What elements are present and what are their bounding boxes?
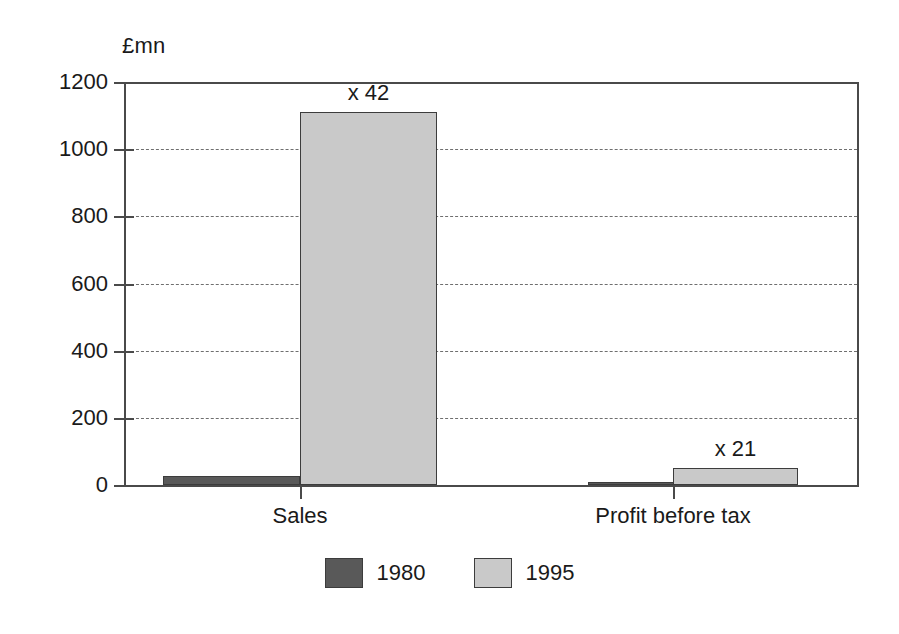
legend-item-1980[interactable]: 1980 xyxy=(325,558,426,588)
y-tick-1000 xyxy=(114,149,134,151)
gridline-400 xyxy=(126,351,857,352)
x-tick-sales xyxy=(300,485,302,499)
chart-legend: 19801995 xyxy=(0,558,899,588)
y-tick-200 xyxy=(114,418,134,420)
y-tick-0 xyxy=(114,485,134,487)
plot-frame-top xyxy=(124,82,859,84)
gridline-200 xyxy=(126,418,857,419)
gridline-1000 xyxy=(126,149,857,150)
legend-label-1980: 1980 xyxy=(377,560,426,586)
category-label-sales: Sales xyxy=(272,503,327,529)
y-tick-600 xyxy=(114,284,134,286)
legend-item-1995[interactable]: 1995 xyxy=(474,558,575,588)
y-tick-800 xyxy=(114,216,134,218)
y-tick-label-200: 200 xyxy=(0,405,108,431)
y-tick-1200 xyxy=(114,82,134,84)
legend-swatch-1980 xyxy=(325,558,363,588)
bar-annotation-x-42: x 42 xyxy=(348,80,390,106)
gridline-800 xyxy=(126,216,857,217)
bar-annotation-x-21: x 21 xyxy=(715,436,757,462)
y-tick-label-1200: 1200 xyxy=(0,69,108,95)
legend-swatch-1995 xyxy=(474,558,512,588)
x-axis-line xyxy=(124,485,859,487)
gridline-600 xyxy=(126,284,857,285)
bar-1980-sales xyxy=(163,476,300,485)
y-axis-unit-label: £mn xyxy=(122,33,165,59)
y-tick-label-400: 400 xyxy=(0,338,108,364)
category-label-profit-before-tax: Profit before tax xyxy=(595,503,750,529)
y-tick-label-1000: 1000 xyxy=(0,136,108,162)
bar-1995-sales xyxy=(300,112,437,485)
y-tick-400 xyxy=(114,351,134,353)
y-tick-label-0: 0 xyxy=(0,472,108,498)
bar-chart: £mn 020040060080010001200 x 42x 21 Sales… xyxy=(0,0,899,634)
y-tick-label-800: 800 xyxy=(0,203,108,229)
bar-1995-profit-before-tax xyxy=(673,468,798,485)
plot-frame-right xyxy=(857,82,859,487)
y-tick-label-600: 600 xyxy=(0,271,108,297)
legend-label-1995: 1995 xyxy=(526,560,575,586)
x-tick-profit-before-tax xyxy=(673,485,675,499)
